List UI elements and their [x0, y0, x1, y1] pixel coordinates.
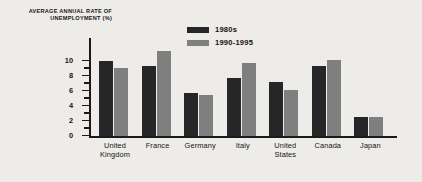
y-tick-8: 8 — [82, 75, 89, 76]
x-axis-line — [89, 136, 397, 138]
y-tick-label-10: 10 — [65, 55, 73, 64]
bar-group — [352, 46, 395, 136]
y-tick-label-0: 0 — [69, 130, 73, 139]
y-tick-label-8: 8 — [69, 70, 73, 79]
y-tick-0: 0 — [82, 135, 89, 136]
bar — [312, 66, 326, 137]
y-tick-4: 4 — [82, 105, 89, 106]
bar — [327, 60, 341, 137]
y-tick-label-2: 2 — [69, 115, 73, 124]
bar — [284, 90, 298, 137]
bar — [99, 61, 113, 136]
bar — [184, 93, 198, 136]
legend-item-1980s: 1980s — [187, 24, 253, 35]
y-tick-2: 2 — [82, 120, 89, 121]
bar — [227, 78, 241, 136]
y-tick-label-4: 4 — [69, 100, 73, 109]
plot-area: 1086420 UnitedKingdomFranceGermanyItalyU… — [89, 46, 397, 136]
y-axis-title: AVERAGE ANNUAL RATE OF UNEMPLOYMENT (%) — [14, 8, 112, 22]
category-label: Japan — [342, 141, 398, 150]
y-tick-label-6: 6 — [69, 85, 73, 94]
bar — [142, 66, 156, 137]
bar — [114, 68, 128, 136]
legend-label-1980s: 1980s — [215, 25, 237, 34]
bar-group — [97, 46, 140, 136]
legend-swatch-1980s — [187, 27, 209, 33]
bar — [369, 117, 383, 137]
bar — [354, 117, 368, 136]
bar — [199, 95, 213, 136]
bar-group — [225, 46, 268, 136]
bar — [269, 82, 283, 136]
legend-swatch-1990-1995 — [187, 40, 209, 46]
bar-group — [267, 46, 310, 136]
bar-group — [182, 46, 225, 136]
bar — [242, 63, 256, 137]
bar — [157, 51, 171, 136]
bar-group — [310, 46, 353, 136]
bar-group — [140, 46, 183, 136]
y-tick-10: 10 — [82, 60, 89, 61]
unemployment-bar-chart: AVERAGE ANNUAL RATE OF UNEMPLOYMENT (%) … — [0, 0, 422, 182]
bar-groups — [89, 46, 397, 136]
y-tick-6: 6 — [82, 90, 89, 91]
